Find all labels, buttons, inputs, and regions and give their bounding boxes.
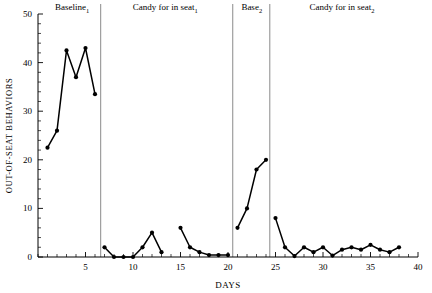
phase-label-text: Baseline — [55, 2, 86, 12]
data-point-baseline-1-day-3 — [64, 48, 68, 52]
phase-label-base-2: Base2 — [241, 2, 262, 14]
data-point-baseline-1-day-2 — [55, 129, 59, 133]
data-point-base-2-day-24 — [264, 158, 268, 162]
phase-label-candy-for-in-seat-1: Candy for in seat1 — [133, 2, 198, 14]
data-point-candy-for-in-seat-1-seg1-day-8 — [112, 255, 116, 259]
y-tick-label-0: 0 — [28, 252, 33, 262]
data-point-baseline-1-day-5 — [83, 46, 87, 50]
series-line-baseline-1 — [48, 48, 96, 148]
data-point-base-2-day-21 — [235, 226, 239, 230]
data-point-candy-for-in-seat-1-seg1-day-11 — [140, 245, 144, 249]
data-point-baseline-1-day-1 — [45, 146, 49, 150]
x-tick-label-20: 20 — [224, 262, 234, 272]
x-tick-label-40: 40 — [414, 262, 424, 272]
y-axis-title: OUT-OF-SEAT BEHAVIORS — [4, 78, 14, 194]
data-point-candy-for-in-seat-2-day-31 — [330, 253, 334, 257]
axis-group — [38, 14, 418, 257]
data-point-baseline-1-day-6 — [93, 92, 97, 96]
phase-label-subscript: 1 — [195, 7, 198, 14]
x-tick-label-15: 15 — [176, 262, 186, 272]
data-point-candy-for-in-seat-2-day-29 — [311, 250, 315, 254]
y-tick-label-20: 20 — [23, 155, 33, 165]
tick-group — [38, 14, 418, 257]
data-point-candy-for-in-seat-2-day-30 — [321, 245, 325, 249]
phase-label-text: Candy for in seat — [133, 2, 195, 12]
tick-label-group: 01020304050510152025303540 — [23, 9, 423, 272]
data-point-baseline-1-day-4 — [74, 75, 78, 79]
data-point-candy-for-in-seat-2-day-25 — [273, 216, 277, 220]
x-axis-title: DAYS — [215, 280, 241, 290]
y-tick-label-40: 40 — [23, 58, 33, 68]
data-point-candy-for-in-seat-2-day-37 — [387, 250, 391, 254]
data-point-candy-for-in-seat-1-seg2-day-16 — [188, 245, 192, 249]
out-of-seat-behaviors-line-chart: Baseline1Candy for in seat1Base2Candy fo… — [0, 0, 432, 293]
data-point-candy-for-in-seat-1-seg2-day-15 — [178, 226, 182, 230]
phase-label-text: Base — [241, 2, 259, 12]
phase-label-baseline-1: Baseline1 — [55, 2, 89, 14]
data-point-candy-for-in-seat-1-seg2-day-20 — [226, 253, 230, 257]
series-line-base-2 — [238, 160, 267, 228]
data-point-candy-for-in-seat-1-seg1-day-10 — [131, 255, 135, 259]
data-point-candy-for-in-seat-2-day-28 — [302, 245, 306, 249]
data-point-candy-for-in-seat-2-day-35 — [368, 243, 372, 247]
data-point-base-2-day-23 — [254, 167, 258, 171]
data-point-candy-for-in-seat-2-day-36 — [378, 248, 382, 252]
phase-label-candy-for-in-seat-2: Candy for in seat2 — [310, 2, 375, 14]
x-tick-label-10: 10 — [129, 262, 139, 272]
data-point-candy-for-in-seat-1-seg2-day-18 — [207, 253, 211, 257]
data-point-candy-for-in-seat-1-seg1-day-13 — [159, 250, 163, 254]
phase-label-group: Baseline1Candy for in seat1Base2Candy fo… — [55, 2, 374, 14]
data-point-candy-for-in-seat-2-day-38 — [397, 245, 401, 249]
x-tick-label-30: 30 — [319, 262, 329, 272]
y-tick-label-30: 30 — [23, 106, 33, 116]
data-point-candy-for-in-seat-1-seg1-day-9 — [121, 255, 125, 259]
data-point-candy-for-in-seat-1-seg1-day-7 — [102, 245, 106, 249]
series-line-candy-for-in-seat-1-seg2 — [181, 228, 229, 255]
y-tick-label-10: 10 — [23, 203, 33, 213]
x-tick-label-25: 25 — [271, 262, 281, 272]
data-point-base-2-day-22 — [245, 206, 249, 210]
data-point-candy-for-in-seat-2-day-34 — [359, 248, 363, 252]
phase-label-subscript: 1 — [86, 7, 89, 14]
data-point-candy-for-in-seat-2-day-26 — [283, 245, 287, 249]
x-tick-label-35: 35 — [366, 262, 376, 272]
axis-lines — [38, 14, 418, 257]
data-point-candy-for-in-seat-1-seg2-day-17 — [197, 250, 201, 254]
phase-label-text: Candy for in seat — [310, 2, 372, 12]
phase-label-subscript: 2 — [371, 7, 374, 14]
data-point-candy-for-in-seat-1-seg1-day-12 — [150, 231, 154, 235]
data-point-candy-for-in-seat-1-seg2-day-19 — [216, 253, 220, 257]
data-point-candy-for-in-seat-2-day-32 — [340, 248, 344, 252]
data-point-candy-for-in-seat-2-day-27 — [292, 254, 296, 258]
data-series-group — [45, 46, 401, 259]
x-tick-label-5: 5 — [83, 262, 88, 272]
phase-divider-group — [101, 4, 270, 257]
chart-figure: Baseline1Candy for in seat1Base2Candy fo… — [0, 0, 432, 293]
y-tick-label-50: 50 — [23, 9, 33, 19]
data-point-candy-for-in-seat-2-day-33 — [349, 245, 353, 249]
phase-label-subscript: 2 — [259, 7, 262, 14]
